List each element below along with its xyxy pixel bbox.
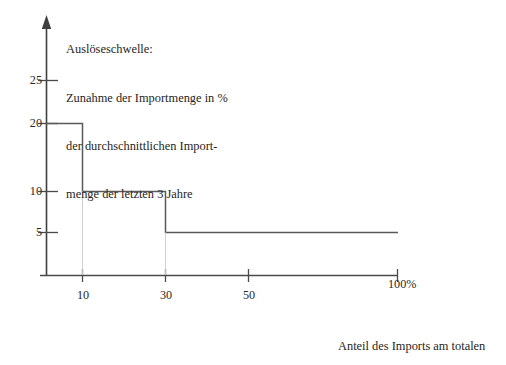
title-line-3: der durchschnittlichen Import- [66, 138, 228, 154]
y-tick-label-25: 25 [12, 73, 42, 89]
y-axis-title-block: Auslöseschwelle: Zunahme der Importmenge… [66, 9, 228, 235]
x-tick-label-30: 30 [145, 288, 187, 304]
y-tick-label-10: 10 [12, 184, 42, 200]
y-tick-label-20: 20 [12, 116, 42, 132]
x-tick-label-10: 10 [62, 288, 104, 304]
chart-figure: 25 20 10 5 10 30 50 100% Auslöseschwelle… [0, 0, 506, 365]
title-line-4: menge der letzten 3 Jahre [66, 186, 228, 202]
x-axis-caption-block: Anteil des Imports am totalen Inlandverb… [338, 306, 485, 365]
title-line-1: Auslöseschwelle: [66, 41, 228, 57]
y-axis-arrow-icon [42, 15, 51, 29]
title-line-2: Zunahme der Importmenge in % [66, 90, 228, 106]
caption-line-1: Anteil des Imports am totalen [338, 338, 485, 354]
x-tick-label-100: 100% [388, 277, 434, 293]
y-tick-label-5: 5 [12, 225, 42, 241]
x-tick-label-50: 50 [228, 288, 270, 304]
